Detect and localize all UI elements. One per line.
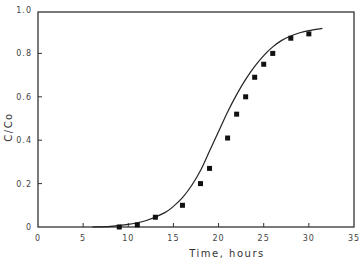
data-point-marker xyxy=(306,31,311,36)
y-tick-label: 0.6 xyxy=(16,93,32,102)
data-point-marker xyxy=(207,166,212,171)
data-point-marker xyxy=(270,51,275,56)
data-point-marker xyxy=(198,181,203,186)
data-point-marker xyxy=(153,215,158,220)
data-point-marker xyxy=(261,62,266,67)
y-axis-label: C/Co xyxy=(3,112,14,141)
data-point-marker xyxy=(135,222,140,227)
plot-frame xyxy=(38,12,354,227)
data-point-marker xyxy=(180,203,185,208)
x-tick-label: 25 xyxy=(258,234,270,243)
model-fit-curve xyxy=(92,28,322,227)
y-tick-label: 0.4 xyxy=(16,136,32,145)
data-point-marker xyxy=(225,136,230,141)
x-tick-label: 10 xyxy=(122,234,134,243)
data-point-marker xyxy=(234,112,239,117)
data-point-marker xyxy=(288,36,293,41)
y-tick-label: 0.2 xyxy=(16,180,32,189)
x-tick-label: 30 xyxy=(303,234,315,243)
data-point-marker xyxy=(252,75,257,80)
x-tick-label: 15 xyxy=(167,234,179,243)
x-tick-label: 0 xyxy=(35,234,41,243)
y-tick-label: 0 xyxy=(26,223,32,232)
data-point-marker xyxy=(117,225,122,230)
measured-data-points xyxy=(117,31,312,229)
breakthrough-curve-chart: 05101520253035 00.20.40.60.81.0 Time, ho… xyxy=(0,0,364,264)
x-axis-label: Time, hours xyxy=(188,248,264,259)
data-point-marker xyxy=(243,94,248,99)
x-axis-ticks: 05101520253035 xyxy=(35,223,360,243)
x-tick-label: 20 xyxy=(212,234,224,243)
y-tick-label: 1.0 xyxy=(16,6,32,15)
x-tick-label: 35 xyxy=(348,234,360,243)
x-tick-label: 5 xyxy=(80,234,86,243)
y-tick-label: 0.8 xyxy=(16,49,32,58)
